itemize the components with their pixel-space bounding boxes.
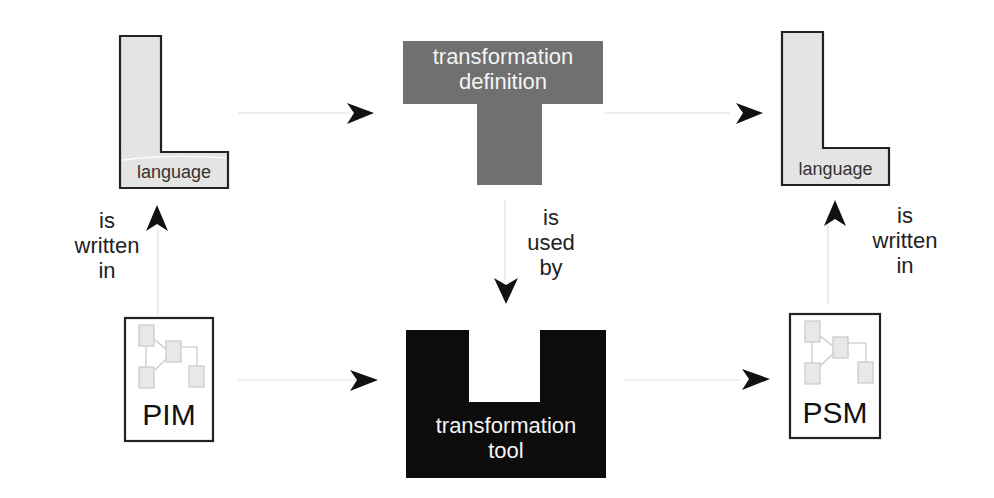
transformation-tool-label: transformation tool [406, 413, 606, 463]
target-language-label: language [782, 159, 889, 180]
arrow-down-icon [494, 278, 518, 304]
arrow-right-icon [742, 369, 770, 390]
arrow-right-icon [347, 103, 374, 124]
source-language-label: language [120, 162, 228, 183]
psm-written-in-label: is written in [860, 203, 950, 278]
arrow-up-icon [824, 200, 846, 226]
edge-label-line: is [860, 203, 950, 228]
pim-written-in-label: is written in [62, 208, 152, 283]
edge-label-line: is [62, 208, 152, 233]
edge-label-line: written [860, 228, 950, 253]
transformation-definition-line2: definition [403, 69, 603, 94]
edge-label-line: in [62, 258, 152, 283]
edge-label-line: used [516, 230, 586, 255]
edge-label-line: by [516, 255, 586, 280]
pim-label: PIM [125, 398, 213, 432]
edge-label-line: is [516, 205, 586, 230]
arrow-right-icon [736, 103, 763, 124]
transformation-definition-line1: transformation [403, 44, 603, 69]
transformation-definition-label: transformation definition [403, 44, 603, 94]
transformation-tool-line1: transformation [406, 413, 606, 438]
psm-label: PSM [790, 396, 880, 430]
definition-used-by-label: is used by [516, 205, 586, 280]
transformation-tool-line2: tool [406, 438, 606, 463]
edge-label-line: written [62, 233, 152, 258]
edge-label-line: in [860, 253, 950, 278]
